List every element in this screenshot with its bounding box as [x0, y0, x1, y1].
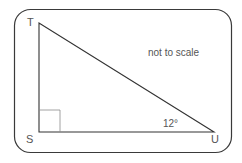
vertex-label-u: U [211, 133, 219, 145]
angle-label: 12° [163, 118, 178, 129]
triangle-tsu [39, 23, 214, 132]
frame-border [15, 10, 232, 153]
right-angle-marker [39, 110, 60, 132]
vertex-label-t: T [27, 16, 34, 28]
triangle-diagram: T S U 12° not to scale [0, 0, 242, 163]
vertex-label-s: S [26, 133, 33, 145]
scale-note: not to scale [148, 47, 200, 58]
